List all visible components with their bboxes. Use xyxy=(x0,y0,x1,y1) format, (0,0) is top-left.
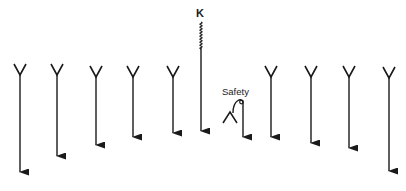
player-p4 xyxy=(127,66,139,137)
kicker-group xyxy=(200,22,202,131)
player-p3 xyxy=(90,66,102,145)
player-v-icon xyxy=(51,64,63,75)
kicker-squiggle-icon xyxy=(200,22,202,49)
player-v-icon xyxy=(127,66,139,77)
safety-inverted-v-icon xyxy=(223,112,237,123)
safety-hook-icon xyxy=(233,100,243,113)
player-v-icon xyxy=(90,66,102,77)
player-v-icon xyxy=(14,64,26,75)
player-v-icon xyxy=(265,66,277,77)
player-v-icon xyxy=(305,66,317,77)
player-p7 xyxy=(265,66,277,137)
kicker-label: K xyxy=(196,7,204,19)
player-v-icon xyxy=(383,67,395,78)
player-p8 xyxy=(305,66,317,143)
player-p2 xyxy=(51,64,63,156)
safety-group xyxy=(223,100,243,137)
player-v-icon xyxy=(167,66,179,77)
formation-diagram: K Safety xyxy=(0,0,406,191)
player-v-icon xyxy=(343,66,355,77)
diagram-canvas xyxy=(0,0,406,191)
player-p5 xyxy=(167,66,179,133)
player-p10 xyxy=(383,67,395,171)
player-p1 xyxy=(14,64,26,172)
player-p9 xyxy=(343,66,355,148)
players-group xyxy=(14,64,395,172)
safety-label: Safety xyxy=(222,86,249,97)
